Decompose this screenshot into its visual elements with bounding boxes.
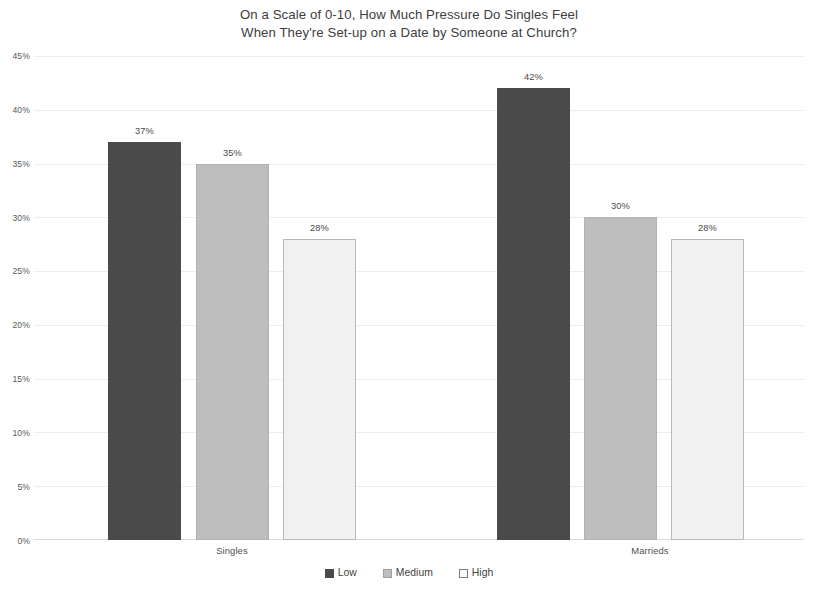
- legend-item-medium[interactable]: Medium: [383, 568, 433, 578]
- legend-swatch-low-icon: [325, 569, 334, 578]
- y-axis-tick-45: 45%: [4, 51, 30, 61]
- y-axis-tick-0: 0%: [4, 536, 30, 546]
- y-axis-tick-30: 30%: [4, 213, 30, 223]
- gridline-45: [34, 56, 804, 57]
- legend-label-low: Low: [338, 568, 357, 578]
- bar-singles-low[interactable]: [108, 142, 181, 540]
- x-axis-category-singles: Singles: [162, 545, 302, 556]
- bar-marrieds-low[interactable]: [497, 88, 570, 540]
- bar-marrieds-medium[interactable]: [584, 217, 657, 540]
- data-label-marrieds-low: 42%: [497, 72, 570, 82]
- chart-title-line-2: When They're Set-up on a Date by Someone…: [0, 24, 818, 42]
- chart-legend: Low Medium High: [0, 568, 818, 578]
- legend-label-medium: Medium: [396, 568, 433, 578]
- y-axis-tick-10: 10%: [4, 428, 30, 438]
- data-label-singles-high: 28%: [283, 223, 356, 233]
- legend-label-high: High: [472, 568, 493, 578]
- gridline-40: [34, 110, 804, 111]
- chart-title-line-1: On a Scale of 0-10, How Much Pressure Do…: [0, 6, 818, 24]
- bar-marrieds-high[interactable]: [671, 239, 744, 540]
- legend-item-high[interactable]: High: [459, 568, 493, 578]
- y-axis-tick-35: 35%: [4, 159, 30, 169]
- y-axis-tick-25: 25%: [4, 266, 30, 276]
- bar-singles-medium[interactable]: [196, 164, 269, 540]
- data-label-marrieds-medium: 30%: [584, 201, 657, 211]
- y-axis-tick-20: 20%: [4, 320, 30, 330]
- legend-item-low[interactable]: Low: [325, 568, 357, 578]
- bar-chart: On a Scale of 0-10, How Much Pressure Do…: [0, 0, 818, 604]
- bar-singles-high[interactable]: [283, 239, 356, 540]
- legend-swatch-high-icon: [459, 569, 468, 578]
- data-label-marrieds-high: 28%: [671, 223, 744, 233]
- y-axis-tick-5: 5%: [4, 482, 30, 492]
- plot-area: 37% 35% 28% 42% 30% 28%: [34, 56, 804, 540]
- data-label-singles-medium: 35%: [196, 148, 269, 158]
- chart-title: On a Scale of 0-10, How Much Pressure Do…: [0, 6, 818, 42]
- legend-swatch-medium-icon: [383, 569, 392, 578]
- x-axis-category-marrieds: Marrieds: [580, 545, 720, 556]
- y-axis-tick-40: 40%: [4, 105, 30, 115]
- y-axis-tick-15: 15%: [4, 374, 30, 384]
- data-label-singles-low: 37%: [108, 126, 181, 136]
